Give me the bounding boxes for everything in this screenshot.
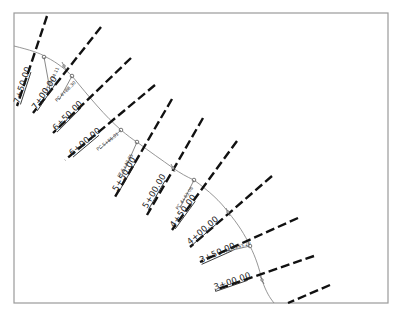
station-label: 6+50.00 <box>50 98 84 132</box>
station-tick-dot <box>172 167 174 169</box>
station-label: 3+50.00 <box>198 240 237 265</box>
section-line: 6+00.00 <box>65 85 155 160</box>
station-tick-dot <box>63 65 65 67</box>
station-label: 5+50.00 <box>110 155 138 193</box>
station-label: 6+00.00 <box>67 125 103 157</box>
section-line <box>288 285 330 303</box>
station-label: 4+00.00 <box>185 214 220 247</box>
cross-section-lines: 7+50.007+00.006+50.006+00.005+50.005+00.… <box>11 16 330 303</box>
station-tick-dot <box>261 279 263 281</box>
station-tick-dot <box>227 211 229 213</box>
section-dashed-line <box>288 285 330 303</box>
section-line: 3+00.00 <box>212 256 314 292</box>
alignment-drawing: 7+50.007+00.006+50.006+00.005+50.005+00.… <box>0 0 396 311</box>
